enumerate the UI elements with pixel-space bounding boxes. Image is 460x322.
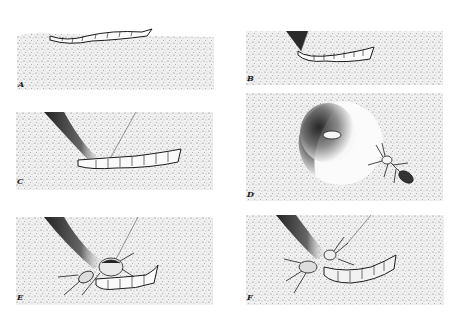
pit-and-wasp-illustration	[246, 93, 443, 201]
panel-label: A	[18, 80, 24, 88]
panel-label: D	[247, 190, 254, 198]
panel-label: C	[17, 177, 23, 185]
larva-on-surface-illustration	[17, 24, 214, 90]
panel-b: B	[246, 29, 443, 85]
panel-label: F	[247, 293, 253, 301]
panel-f: F	[246, 215, 444, 305]
larva-emerging-from-burrow-illustration	[16, 112, 213, 190]
panel-label: E	[17, 293, 23, 301]
panel-e: E	[16, 217, 213, 305]
insect-grasping-larva-illustration	[16, 217, 213, 305]
larva-at-burrow-illustration	[246, 29, 443, 85]
panel-a: A	[17, 24, 214, 90]
panel-label: B	[247, 74, 254, 82]
panel-d: D	[246, 93, 443, 201]
panel-c: C	[16, 112, 213, 190]
insect-pulling-larva-illustration	[246, 215, 444, 305]
larva-head-icon	[323, 131, 341, 139]
